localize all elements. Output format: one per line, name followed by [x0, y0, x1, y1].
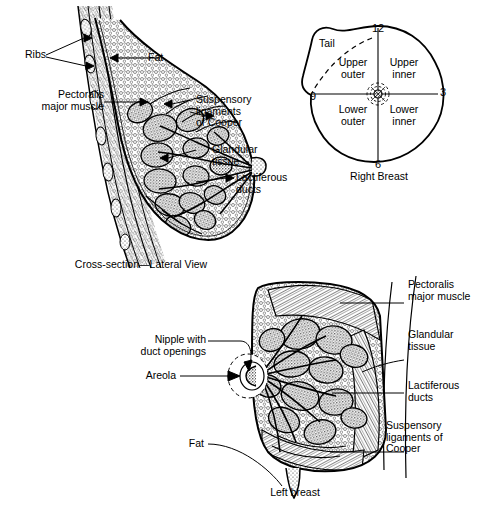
label-suspensory-ligaments-lateral: Suspensory ligaments of Cooper: [196, 94, 251, 129]
clock-label-3: 3: [436, 86, 450, 98]
caption-right-breast: Right Breast: [334, 170, 424, 182]
breast-anatomy-figure: Ribs Fat Pectoralis major muscle Suspens…: [0, 0, 489, 511]
label-tail: Tail: [319, 38, 335, 50]
label-pectoralis-lateral: Pectoralis major muscle: [0, 89, 104, 112]
label-areola: Areola: [114, 370, 176, 382]
label-suspensory-ligaments-anterior: Suspensory ligaments of Cooper: [386, 420, 443, 455]
label-upper-outer: Upper outer: [331, 57, 375, 80]
caption-left-breast: Left breast: [240, 486, 350, 498]
label-upper-inner: Upper inner: [382, 57, 426, 80]
label-fat-lateral: Fat: [148, 52, 163, 64]
label-lactiferous-ducts-anterior: Lactiferous ducts: [408, 380, 459, 403]
label-fat-anterior: Fat: [160, 438, 204, 450]
label-lower-outer: Lower outer: [331, 104, 375, 127]
clock-label-12: 12: [366, 22, 390, 34]
clock-label-6: 6: [371, 158, 385, 170]
label-ribs: Ribs: [4, 49, 46, 61]
caption-lateral-view: Cross-section—Lateral View: [36, 258, 246, 270]
label-lower-inner: Lower inner: [382, 104, 426, 127]
label-glandular-tissue-anterior: Glandular tissue: [408, 329, 454, 352]
label-glandular-tissue-lateral: Glandular tissue: [212, 144, 258, 167]
label-nipple-duct-openings: Nipple with duct openings: [114, 334, 206, 357]
clock-label-9: 9: [306, 90, 320, 102]
label-lactiferous-ducts-lateral: Lactiferous ducts: [236, 172, 287, 195]
label-pectoralis-anterior: Pectoralis major muscle: [408, 279, 470, 302]
